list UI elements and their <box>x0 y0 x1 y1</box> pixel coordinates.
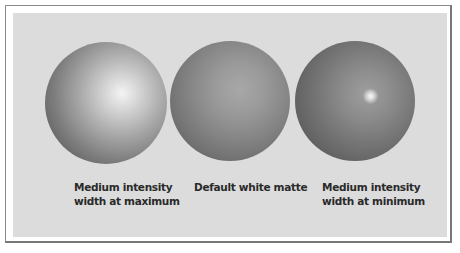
caption-line: Default white matte <box>194 180 307 194</box>
sphere-narrow-highlight <box>295 41 415 161</box>
caption-sphere-2: Default white matte <box>194 180 307 194</box>
sphere-broad-highlight <box>45 42 167 164</box>
caption-sphere-1: Medium intensity width at maximum <box>74 180 180 208</box>
sphere-matte <box>170 41 290 161</box>
caption-line: width at minimum <box>322 194 425 208</box>
caption-sphere-3: Medium intensity width at minimum <box>322 180 425 208</box>
caption-line: Medium intensity <box>322 180 425 194</box>
caption-line: width at maximum <box>74 194 180 208</box>
caption-line: Medium intensity <box>74 180 180 194</box>
